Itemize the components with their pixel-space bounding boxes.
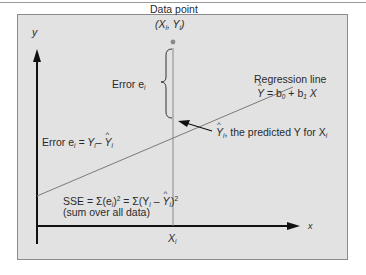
predicted-label: Yi, the predicted Y for Xi	[216, 126, 327, 142]
error-brace	[161, 49, 172, 118]
y-axis-arrow-icon	[33, 49, 41, 62]
error-ei-label: Error ei	[112, 78, 146, 94]
data-point-label: Data point	[150, 3, 198, 15]
regression-line-title: Regression line	[254, 73, 326, 85]
y-axis-label: y	[32, 26, 37, 38]
predicted-pointer-arrow-icon	[178, 120, 190, 127]
x-axis-arrow-icon	[287, 222, 300, 230]
error-formula: Error ei = Yi– Yi	[42, 136, 113, 152]
data-point-coords: (Xi, Yi)	[155, 18, 185, 34]
predicted-pointer	[186, 123, 212, 131]
xi-tick-label: Xi	[168, 232, 176, 248]
regression-equation: Y = b0 + b1 X	[257, 87, 317, 103]
x-axis-label: x	[308, 220, 313, 232]
data-point-marker	[171, 40, 176, 45]
sse-note: (sum over all data)	[63, 206, 150, 218]
